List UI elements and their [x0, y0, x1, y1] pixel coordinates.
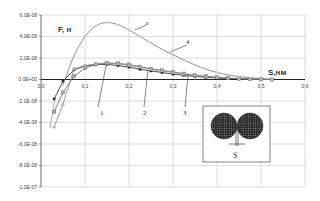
- curve-label-epsilon: ε: [146, 19, 149, 27]
- series-4: [62, 22, 273, 86]
- x-tick-label: 0.4: [214, 83, 221, 89]
- y-axis-label: F, н: [58, 25, 71, 34]
- x-tick-label: 0.0: [38, 83, 45, 89]
- x-tick-label: 0.2: [126, 83, 133, 89]
- y-tick-label: -2.0E-08: [18, 98, 37, 104]
- y-tick-label: -1.0E-07: [18, 184, 37, 190]
- x-axis-label: S,нм: [268, 68, 286, 77]
- nanoparticle-left: [211, 113, 237, 139]
- curve-label-3: 3: [183, 109, 187, 117]
- y-tick-label: 0.0E+00: [18, 76, 37, 82]
- inset-distance-label: S: [233, 151, 237, 160]
- y-tick-label: 6.0E-08: [19, 12, 37, 18]
- curve-label-4: 4: [186, 38, 190, 46]
- x-tick-label: 0.6: [302, 83, 309, 89]
- inset-diagram: S: [203, 106, 270, 162]
- x-tick-label: 0.1: [82, 83, 89, 89]
- force-distance-chart: 6.0E-084.0E-082.0E-080.0E+00-2.0E-08-4.0…: [0, 0, 320, 201]
- y-tick-label: -8.0E-08: [18, 162, 37, 168]
- x-tick-label: 0.3: [170, 83, 177, 89]
- y-tick-label: 2.0E-08: [19, 55, 37, 61]
- y-tick-label: -4.0E-08: [18, 119, 37, 125]
- curve-label-2: 2: [143, 109, 147, 117]
- y-tick-label: -6.0E-08: [18, 141, 37, 147]
- x-tick-labels: 0.00.10.20.30.40.50.6: [38, 83, 309, 89]
- x-tick-label: 0.5: [258, 83, 265, 89]
- y-tick-label: 4.0E-08: [19, 33, 37, 39]
- curve-label-1: 1: [100, 109, 104, 117]
- nanoparticle-right: [237, 113, 263, 139]
- y-tick-labels: 6.0E-084.0E-082.0E-080.0E+00-2.0E-08-4.0…: [18, 12, 37, 190]
